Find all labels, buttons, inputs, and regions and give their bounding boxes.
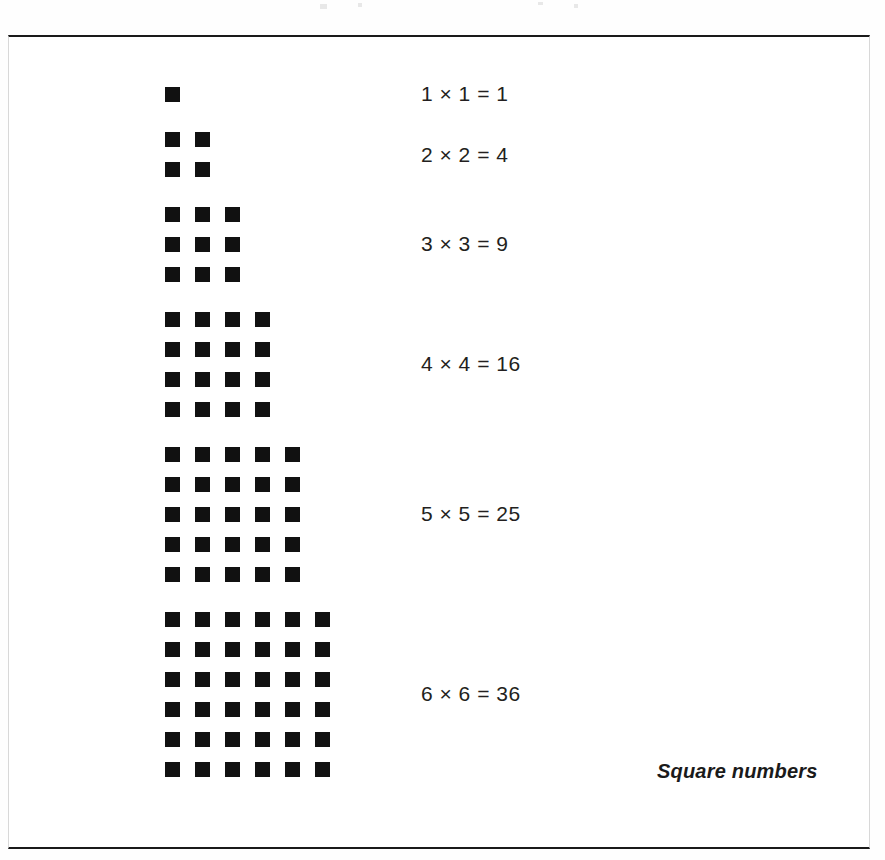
dot-square bbox=[225, 237, 240, 252]
dot-square bbox=[315, 732, 330, 747]
dot-grid bbox=[165, 87, 180, 102]
equation-6: 6 × 6 = 36 bbox=[421, 682, 521, 706]
dot-grid bbox=[165, 312, 270, 417]
scan-artifact bbox=[358, 3, 362, 7]
dot-square bbox=[285, 537, 300, 552]
equation-5: 5 × 5 = 25 bbox=[421, 502, 521, 526]
dot-square bbox=[165, 237, 180, 252]
dot-square bbox=[225, 447, 240, 462]
dot-square bbox=[195, 762, 210, 777]
dot-square bbox=[285, 477, 300, 492]
dot-array-5 bbox=[165, 447, 300, 582]
scan-artifact bbox=[574, 4, 578, 8]
dot-square bbox=[285, 762, 300, 777]
dot-square bbox=[165, 402, 180, 417]
dot-square bbox=[315, 672, 330, 687]
dot-square bbox=[225, 762, 240, 777]
equation-3: 3 × 3 = 9 bbox=[421, 232, 508, 256]
dot-square bbox=[285, 507, 300, 522]
dot-square bbox=[225, 702, 240, 717]
dot-square bbox=[315, 702, 330, 717]
dot-array-6 bbox=[165, 612, 330, 777]
dot-square bbox=[285, 672, 300, 687]
scan-artifact bbox=[320, 4, 327, 9]
dot-square bbox=[285, 612, 300, 627]
dot-square bbox=[225, 732, 240, 747]
dot-square bbox=[195, 267, 210, 282]
dot-square bbox=[165, 567, 180, 582]
dot-square bbox=[165, 342, 180, 357]
dot-square bbox=[255, 702, 270, 717]
dot-array-1 bbox=[165, 87, 180, 102]
equation-4: 4 × 4 = 16 bbox=[421, 352, 521, 376]
dot-square bbox=[285, 567, 300, 582]
dot-square bbox=[225, 312, 240, 327]
dot-square bbox=[165, 87, 180, 102]
dot-grid bbox=[165, 447, 300, 582]
dot-square bbox=[195, 672, 210, 687]
dot-square bbox=[255, 372, 270, 387]
dot-square bbox=[255, 612, 270, 627]
dot-square bbox=[255, 507, 270, 522]
dot-square bbox=[165, 762, 180, 777]
dot-square bbox=[195, 402, 210, 417]
dot-square bbox=[165, 537, 180, 552]
dot-grid bbox=[165, 207, 240, 282]
dot-square bbox=[165, 507, 180, 522]
figure-frame: 1 × 1 = 12 × 2 = 43 × 3 = 94 × 4 = 165 ×… bbox=[8, 35, 870, 849]
dot-square bbox=[225, 372, 240, 387]
dot-square bbox=[165, 267, 180, 282]
dot-square bbox=[165, 702, 180, 717]
dot-square bbox=[195, 342, 210, 357]
dot-square bbox=[165, 672, 180, 687]
dot-square bbox=[195, 702, 210, 717]
square-numbers-figure: 1 × 1 = 12 × 2 = 43 × 3 = 94 × 4 = 165 ×… bbox=[9, 37, 871, 851]
dot-square bbox=[315, 612, 330, 627]
dot-square bbox=[165, 372, 180, 387]
dot-square bbox=[195, 477, 210, 492]
dot-grid bbox=[165, 132, 210, 177]
dot-square bbox=[255, 762, 270, 777]
dot-square bbox=[225, 642, 240, 657]
dot-square bbox=[285, 447, 300, 462]
dot-square bbox=[165, 612, 180, 627]
dot-square bbox=[255, 342, 270, 357]
dot-square bbox=[195, 732, 210, 747]
dot-square bbox=[255, 732, 270, 747]
dot-square bbox=[195, 312, 210, 327]
dot-square bbox=[255, 312, 270, 327]
dot-square bbox=[225, 672, 240, 687]
dot-square bbox=[165, 732, 180, 747]
equation-2: 2 × 2 = 4 bbox=[421, 143, 508, 167]
dot-square bbox=[285, 732, 300, 747]
dot-square bbox=[255, 447, 270, 462]
dot-array-4 bbox=[165, 312, 270, 417]
dot-square bbox=[165, 207, 180, 222]
dot-square bbox=[165, 642, 180, 657]
dot-square bbox=[255, 402, 270, 417]
dot-square bbox=[225, 567, 240, 582]
dot-array-2 bbox=[165, 132, 210, 177]
dot-square bbox=[315, 762, 330, 777]
dot-square bbox=[255, 567, 270, 582]
dot-square bbox=[195, 162, 210, 177]
dot-square bbox=[225, 537, 240, 552]
scanned-page: 1 × 1 = 12 × 2 = 43 × 3 = 94 × 4 = 165 ×… bbox=[0, 0, 885, 860]
dot-square bbox=[225, 402, 240, 417]
dot-square bbox=[165, 477, 180, 492]
dot-square bbox=[225, 267, 240, 282]
dot-square bbox=[195, 372, 210, 387]
dot-square bbox=[255, 477, 270, 492]
equation-1: 1 × 1 = 1 bbox=[421, 82, 508, 106]
dot-square bbox=[225, 342, 240, 357]
dot-square bbox=[225, 612, 240, 627]
dot-square bbox=[195, 642, 210, 657]
dot-square bbox=[195, 207, 210, 222]
dot-square bbox=[165, 447, 180, 462]
dot-square bbox=[255, 537, 270, 552]
scan-artifact bbox=[538, 2, 543, 5]
dot-square bbox=[195, 567, 210, 582]
figure-caption: Square numbers bbox=[657, 760, 818, 783]
dot-square bbox=[255, 672, 270, 687]
dot-square bbox=[255, 642, 270, 657]
